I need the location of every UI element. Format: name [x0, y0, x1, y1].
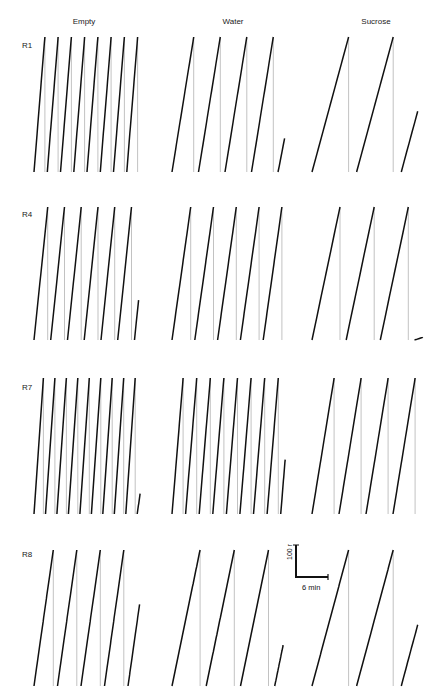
cumulative-trace-r4-water — [172, 207, 282, 340]
cumulative-trace-r1-water — [172, 37, 285, 172]
cumulative-trace-r1-sucrose — [312, 37, 418, 172]
cumulative-trace-r1-empty — [34, 37, 138, 172]
cumulative-trace-r7-empty — [34, 378, 140, 514]
cumulative-trace-r7-water — [172, 378, 285, 514]
cumulative-record-grid — [0, 0, 447, 695]
cumulative-trace-r4-empty — [34, 207, 139, 340]
cumulative-trace-r7-sucrose — [312, 378, 415, 514]
cumulative-trace-r4-sucrose — [312, 207, 423, 340]
cumulative-trace-r8-water — [172, 550, 283, 686]
scale-y-label: 100 r — [286, 544, 293, 560]
scale-bar-lines — [290, 543, 330, 583]
scale-x-label: 6 min — [302, 583, 320, 592]
